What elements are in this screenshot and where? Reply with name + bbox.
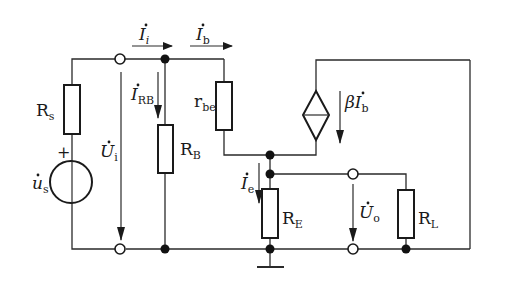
voltage-source-icon (50, 161, 92, 203)
label-ii: Ii (138, 24, 149, 47)
label-uo: Uo (359, 202, 380, 225)
label-rbe: rbe (194, 91, 216, 114)
label-ui: Ui (100, 141, 118, 164)
circuit-svg: + Rs us RB rbe RE RL βIb Ii Ib IRB Ie Ui… (0, 0, 505, 287)
node-dot (266, 151, 275, 160)
label-ie: Ie (240, 173, 254, 196)
label-us: us (32, 173, 49, 196)
resistor-rb (158, 125, 173, 173)
circuit-diagram: + Rs us RB rbe RE RL βIb Ii Ib IRB Ie Ui… (0, 0, 505, 287)
node-dot (266, 245, 275, 254)
plus-sign: + (57, 143, 70, 162)
input-terminal-bottom (115, 244, 125, 254)
controlled-current-source-icon (303, 91, 329, 140)
node-dot (266, 170, 275, 179)
output-terminal-bottom (348, 244, 358, 254)
node-dot (161, 55, 170, 64)
output-terminal-top (348, 169, 358, 179)
label-rl: RL (418, 208, 439, 231)
node-dot (161, 245, 170, 254)
label-re: RE (282, 208, 303, 231)
node-dot (402, 245, 411, 254)
label-ib: Ib (195, 24, 210, 47)
resistor-rl (398, 190, 414, 238)
label-rs: Rs (36, 100, 55, 123)
resistor-rs (64, 85, 80, 134)
input-terminal-top (115, 54, 125, 64)
label-rb: RB (180, 139, 201, 162)
label-irb: IRB (130, 84, 154, 107)
resistor-re (262, 189, 278, 238)
resistor-rbe (216, 82, 232, 130)
label-beta-ib: βIb (344, 92, 369, 115)
